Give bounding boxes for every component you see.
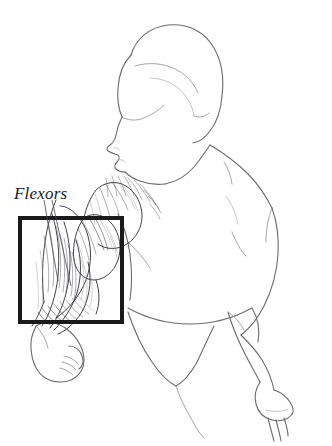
- chin-jaw: [125, 172, 165, 184]
- brachialis-outline: [56, 206, 91, 318]
- thigh-inner-line: [176, 386, 204, 438]
- finger-3: [284, 418, 288, 436]
- fist-outline: [31, 323, 84, 382]
- fist-wrist-line: [36, 326, 48, 348]
- hair-fringe: [118, 55, 131, 117]
- pec-lower-line: [224, 162, 232, 184]
- hair-side-lock: [194, 113, 209, 117]
- arm-muscle-group: [31, 176, 161, 382]
- hair-lower-line: [122, 105, 164, 120]
- hip-outer-curve: [252, 308, 259, 342]
- finger-2: [276, 420, 281, 441]
- finger-knuckle-line: [266, 409, 288, 411]
- head-hair-outline: [131, 25, 223, 143]
- leader-line-1: [44, 200, 58, 281]
- leader-lines-group: [44, 200, 71, 286]
- trapezius-slope: [210, 145, 272, 208]
- leader-line-2: [52, 200, 71, 286]
- brief-crotch: [176, 326, 214, 386]
- biceps-fibers: [76, 216, 117, 267]
- body-outline-group: [107, 25, 293, 441]
- neck-trapezius: [165, 145, 210, 184]
- lat-edge: [266, 208, 272, 242]
- fist-knuckle-3: [60, 368, 73, 375]
- hair-inner-wave2: [150, 78, 194, 116]
- forearm-inner: [96, 280, 99, 314]
- nostril-mark: [114, 148, 119, 150]
- finger-1: [268, 418, 274, 441]
- far-arm-inner: [228, 312, 260, 382]
- torso-front-line: [232, 232, 246, 256]
- brief-leg-line: [128, 312, 176, 386]
- anatomy-figure: .outline { fill:none; stroke:#6b6b72; st…: [0, 0, 332, 446]
- brachialis-edge2: [43, 200, 57, 302]
- flexors-label: Flexors: [14, 184, 67, 204]
- deltoid-top: [84, 190, 96, 218]
- anatomy-illustration: .outline { fill:none; stroke:#6b6b72; st…: [0, 0, 332, 446]
- hair-inner-wave: [135, 64, 198, 93]
- back-contour: [241, 208, 278, 335]
- scapula-shade: [226, 196, 238, 224]
- far-arm-outer: [241, 335, 274, 390]
- face-profile: [107, 117, 125, 172]
